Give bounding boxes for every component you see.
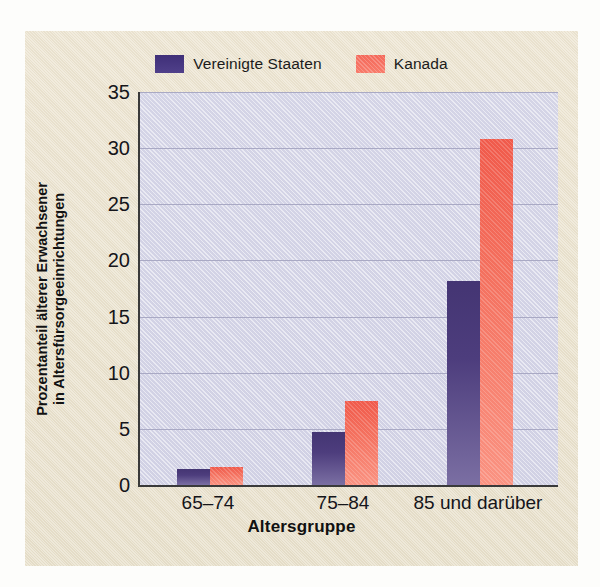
- figure-card: Vereinigte Staaten Kanada Prozentanteil …: [25, 31, 578, 566]
- bar-kanada: [210, 467, 243, 485]
- plot-wrapper: 05101520253035 65–7475–8485 und darüber: [138, 92, 556, 485]
- y-axis-tick-label: 30: [84, 137, 130, 160]
- legend-label-kanada: Kanada: [394, 55, 448, 73]
- y-axis-title-line2: in Altersfürsorgeeinrichtungen: [51, 182, 68, 416]
- x-axis-tick-label: 75–84: [317, 492, 370, 514]
- legend-entry-kanada: Kanada: [356, 55, 448, 73]
- bar-vereinigte-staaten: [177, 469, 210, 485]
- bar-group: [447, 92, 513, 485]
- x-axis-tick-label: 65–74: [182, 492, 235, 514]
- y-axis-tick-label: 5: [84, 417, 130, 440]
- legend-entry-vereinigte-staaten: Vereinigte Staaten: [155, 55, 321, 73]
- y-axis-tick-label: 25: [84, 193, 130, 216]
- x-axis-tick-label: 85 und darüber: [414, 492, 543, 514]
- bar-group: [177, 92, 243, 485]
- y-axis-title-line1: Prozentanteil älterer Erwachsener: [34, 182, 50, 416]
- legend-swatch-vereinigte-staaten: [155, 55, 184, 73]
- bar-vereinigte-staaten: [312, 432, 345, 485]
- figure-root: Vereinigte Staaten Kanada Prozentanteil …: [0, 0, 600, 587]
- bar-kanada: [345, 401, 378, 485]
- y-axis-title: Prozentanteil älterer Erwachsener in Alt…: [31, 99, 71, 499]
- bar-group: [312, 92, 378, 485]
- chart-legend: Vereinigte Staaten Kanada: [25, 55, 578, 73]
- legend-label-vereinigte-staaten: Vereinigte Staaten: [193, 55, 321, 73]
- legend-swatch-kanada: [356, 55, 385, 73]
- bar-kanada: [480, 139, 513, 485]
- y-axis-tick-label: 10: [84, 361, 130, 384]
- y-axis-tick-label: 0: [84, 474, 130, 497]
- y-axis-tick-label: 35: [84, 81, 130, 104]
- bar-vereinigte-staaten: [447, 281, 480, 485]
- y-axis-tick-labels: 05101520253035: [80, 92, 130, 485]
- plot-area: [138, 92, 558, 487]
- y-axis-tick-label: 15: [84, 305, 130, 328]
- x-axis-title: Altersgruppe: [25, 517, 578, 537]
- y-axis-tick-label: 20: [84, 249, 130, 272]
